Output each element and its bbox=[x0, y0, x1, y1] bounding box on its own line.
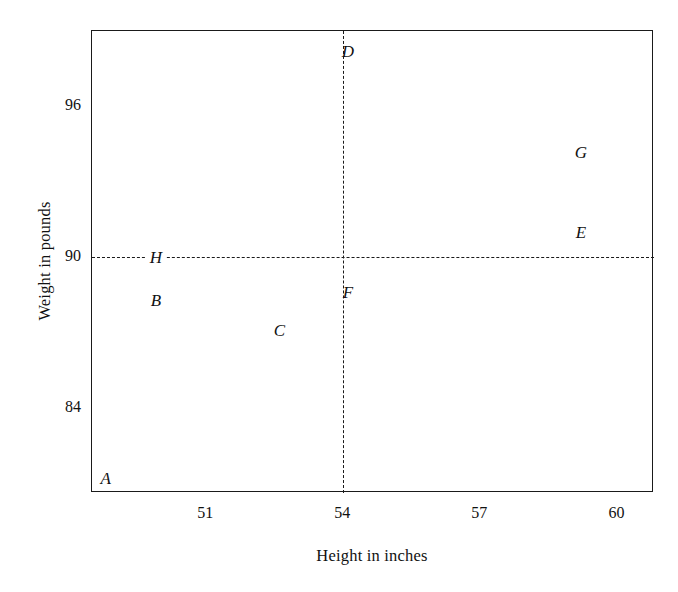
point-label-g: G bbox=[575, 143, 587, 160]
x-tick-label: 51 bbox=[197, 504, 213, 522]
y-tick-label: 96 bbox=[29, 96, 81, 114]
y-tick-label: 90 bbox=[29, 247, 81, 265]
x-axis-title: Height in inches bbox=[91, 546, 653, 566]
point-label-c: C bbox=[274, 321, 285, 338]
point-label-h: H bbox=[146, 247, 166, 266]
y-tick-label: 84 bbox=[29, 398, 81, 416]
x-tick-label: 57 bbox=[471, 504, 487, 522]
scatter-plot-figure: Weight in pounds Height in inches 969084… bbox=[0, 0, 678, 592]
point-label-d: D bbox=[342, 43, 354, 60]
x-tick-label: 60 bbox=[608, 504, 624, 522]
point-label-a: A bbox=[101, 469, 111, 486]
x-tick-label: 54 bbox=[334, 504, 350, 522]
point-label-e: E bbox=[576, 223, 586, 240]
plot-area: ABCDEFGH bbox=[91, 30, 653, 492]
point-label-b: B bbox=[151, 291, 161, 308]
reference-line-vertical bbox=[343, 31, 344, 493]
reference-line-horizontal bbox=[92, 257, 654, 258]
point-label-f: F bbox=[343, 284, 353, 301]
